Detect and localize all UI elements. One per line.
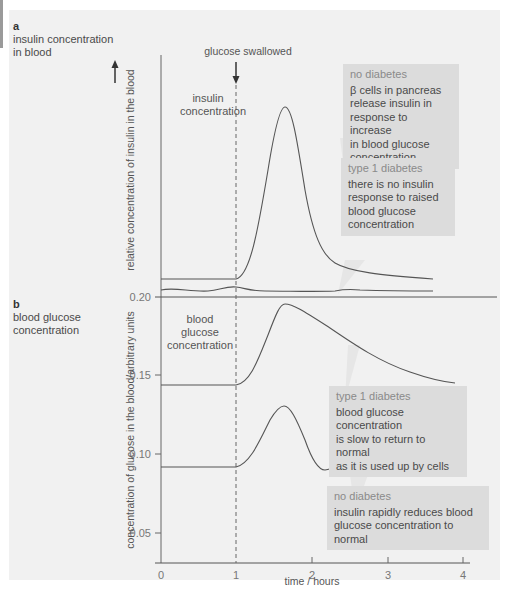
y-axis-title-a: relative concentration of insulin in the… xyxy=(124,69,136,271)
callout-heading: no diabetes xyxy=(350,68,452,82)
x-axis-title: time / hours xyxy=(285,575,340,587)
callout-no-diabetes-glucose: no diabetes insulin rapidly reduces bloo… xyxy=(327,486,489,550)
x-tick-label: 1 xyxy=(233,569,239,581)
callout-heading: type 1 diabetes xyxy=(348,162,448,176)
callout-text: there is no insulin response to raised b… xyxy=(348,178,448,232)
glucose-swallowed-label: glucose swallowed xyxy=(204,45,292,57)
callout-text: blood glucose concentration is slow to r… xyxy=(336,406,460,474)
callout-heading: type 1 diabetes xyxy=(336,390,460,404)
insulin-concentration-label: insulin concentration xyxy=(180,92,236,118)
y-axis-title-b: concentration of glucose in the blood/ar… xyxy=(124,311,136,549)
callout-text: β cells in pancreas release insulin in r… xyxy=(350,84,452,165)
x-tick-label: 4 xyxy=(460,569,466,581)
x-tick-label: 0 xyxy=(158,569,164,581)
callout-pointer xyxy=(338,260,365,294)
x-tick-label: 3 xyxy=(385,569,391,581)
callout-type1-insulin: type 1 diabetes there is no insulin resp… xyxy=(341,158,455,236)
callout-text: insulin rapidly reduces blood glucose co… xyxy=(334,506,482,547)
blood-glucose-concentration-label: blood glucose concentration xyxy=(164,313,236,352)
arrow-down-head-icon xyxy=(233,76,240,84)
callout-type1-glucose: type 1 diabetes blood glucose concentrat… xyxy=(329,386,467,477)
y-tick-label: 0.20 xyxy=(130,291,151,303)
callout-no-diabetes-insulin: no diabetes β cells in pancreas release … xyxy=(343,64,459,169)
arrow-up-head-icon xyxy=(112,60,119,68)
insulin-curve-type1 xyxy=(161,287,433,292)
callout-heading: no diabetes xyxy=(334,490,482,504)
